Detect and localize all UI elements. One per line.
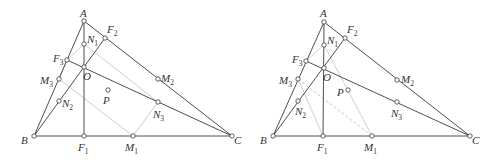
point-label-p: P: [102, 94, 110, 106]
point-label-subscript: 3: [288, 80, 292, 89]
solid-segment-b-f2: [273, 38, 345, 136]
point-marker-f2: [103, 36, 107, 40]
point-label-m1: M1: [124, 141, 138, 156]
point-marker-p: [106, 88, 110, 92]
point-label-f3: F3: [52, 52, 64, 67]
triangle-figure-right: AF2N1F3OM3M2PN2N3BF1M1C: [260, 7, 480, 156]
point-label-n2: N2: [294, 105, 306, 120]
point-marker-f3: [304, 59, 308, 63]
triangle-figure-left: AF2N1F3OM3M2PN2N3BF1M1C: [21, 7, 242, 156]
point-marker-m1: [370, 134, 374, 138]
auxiliary-segment-f3-n1: [67, 44, 84, 60]
point-label-subscript: 2: [354, 29, 358, 38]
point-label-f2: F2: [346, 23, 358, 38]
point-marker-b: [32, 134, 36, 138]
point-label-a: A: [319, 7, 327, 19]
point-marker-n2: [57, 99, 61, 103]
geometry-diagram: AF2N1F3OM3M2PN2N3BF1M1C AF2N1F3OM3M2PN2N…: [0, 0, 500, 162]
point-label-subscript: 3: [398, 113, 402, 122]
point-label-subscript: 3: [299, 59, 303, 68]
point-label-subscript: 2: [170, 78, 174, 87]
point-label-n2: N2: [61, 97, 73, 112]
point-marker-m1: [131, 134, 135, 138]
point-label-o: O: [323, 71, 331, 83]
point-label-m3: M3: [39, 74, 53, 89]
point-label-subscript: 2: [69, 103, 73, 112]
point-label-f1: F1: [77, 141, 89, 156]
point-label-f3: F3: [291, 53, 303, 68]
point-marker-f2: [343, 36, 347, 40]
point-marker-n2: [296, 99, 300, 103]
point-marker-m3: [57, 77, 61, 81]
point-marker-m2: [156, 77, 160, 81]
point-marker-a: [322, 20, 326, 24]
point-label-m2: M2: [160, 72, 174, 87]
point-label-n3: N3: [390, 107, 402, 122]
point-label-b: B: [21, 134, 28, 146]
point-label-subscript: 1: [94, 39, 98, 48]
point-label-a: A: [79, 7, 87, 19]
point-label-subscript: 1: [334, 40, 338, 49]
point-marker-f3: [65, 58, 69, 62]
point-marker-f1: [321, 134, 325, 138]
point-marker-n3: [156, 100, 160, 104]
point-label-m3: M3: [278, 74, 292, 89]
point-marker-p: [346, 88, 350, 92]
point-label-m2: M2: [400, 73, 414, 88]
point-label-n3: N3: [152, 108, 164, 123]
point-marker-m3: [296, 77, 300, 81]
auxiliary-segment-f3-n1: [306, 45, 324, 61]
point-label-subscript: 2: [410, 79, 414, 88]
point-label-subscript: 1: [85, 147, 89, 156]
point-label-b: B: [260, 134, 267, 146]
point-label-n1: N1: [86, 33, 98, 48]
point-label-subscript: 3: [60, 58, 64, 67]
point-label-subscript: 1: [134, 147, 138, 156]
point-label-c: C: [234, 134, 242, 146]
point-label-subscript: 3: [160, 114, 164, 123]
point-label-n1: N1: [326, 34, 338, 49]
point-label-f1: F1: [316, 141, 328, 156]
point-marker-n3: [395, 100, 399, 104]
point-marker-b: [271, 134, 275, 138]
solid-segment-b-f2: [34, 38, 105, 136]
point-marker-o: [82, 65, 86, 69]
point-label-o: O: [83, 70, 91, 82]
point-label-subscript: 2: [114, 29, 118, 38]
point-label-subscript: 3: [49, 80, 53, 89]
point-marker-n1: [322, 43, 326, 47]
point-label-subscript: 1: [324, 147, 328, 156]
point-label-f2: F2: [106, 23, 118, 38]
point-label-c: C: [472, 134, 480, 146]
point-label-subscript: 1: [373, 147, 377, 156]
point-marker-n1: [82, 42, 86, 46]
point-label-subscript: 2: [302, 111, 306, 120]
point-label-p: P: [336, 86, 344, 98]
point-marker-a: [82, 19, 86, 23]
point-marker-f1: [82, 134, 86, 138]
point-label-m1: M1: [363, 141, 377, 156]
point-marker-o: [322, 66, 326, 70]
point-marker-m2: [395, 78, 399, 82]
